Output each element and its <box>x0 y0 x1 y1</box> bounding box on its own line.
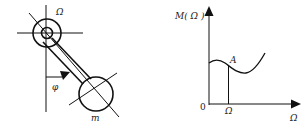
torque-graph <box>205 6 302 109</box>
pendulum-diagram <box>17 5 119 117</box>
x-axis-label: Ω <box>289 113 298 123</box>
y-axis-label: M( Ω ) <box>174 11 205 21</box>
point-a-label: A <box>229 55 237 65</box>
omega-label: Ω <box>55 7 64 17</box>
tick-omega-label: Ω <box>224 106 233 116</box>
phi-label: φ <box>52 82 59 92</box>
torque-curve <box>209 53 265 73</box>
figure-canvas: Ω φ m M( Ω ) 0 Ω Ω A <box>0 0 308 127</box>
mass-circle <box>79 77 113 111</box>
y-axis-arrowhead-icon <box>205 6 214 16</box>
origin-label: 0 <box>200 102 206 112</box>
x-axis-arrowhead-icon <box>291 100 301 109</box>
angle-arrowhead-icon <box>60 71 70 80</box>
mass-label: m <box>91 113 100 123</box>
